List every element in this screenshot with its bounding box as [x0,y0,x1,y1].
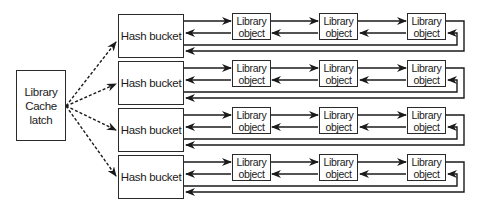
hash-bucket-label: Hash bucket [121,30,182,43]
hash-bucket: Hash bucket [118,108,184,152]
library-object-label: Library object [412,109,442,133]
hash-bucket-label: Hash bucket [121,171,182,184]
library-object: Library object [407,13,446,40]
library-object: Library object [407,60,446,87]
library-object-label: Library object [237,156,267,180]
library-object: Library object [319,60,358,87]
library-object: Library object [407,107,446,134]
library-object-label: Library object [237,62,267,86]
library-object: Library object [319,154,358,181]
library-object: Library object [407,154,446,181]
library-cache-latch: Library Cache latch [16,70,66,141]
hash-bucket: Hash bucket [118,14,184,58]
library-object-label: Library object [237,109,267,133]
hash-bucket-label: Hash bucket [121,77,182,90]
library-object-label: Library object [412,62,442,86]
library-object: Library object [232,107,271,134]
library-object-label: Library object [412,15,442,39]
library-object: Library object [232,154,271,181]
library-object-label: Library object [324,156,354,180]
library-object: Library object [232,60,271,87]
hash-bucket-label: Hash bucket [121,124,182,137]
hash-bucket: Hash bucket [118,61,184,105]
library-object-label: Library object [237,15,267,39]
library-object: Library object [319,107,358,134]
library-object: Library object [232,13,271,40]
hash-bucket: Hash bucket [118,155,184,199]
library-object: Library object [319,13,358,40]
library-object-label: Library object [324,62,354,86]
latch-arrows [66,42,116,176]
latch-label: Library Cache latch [24,85,57,127]
library-object-label: Library object [324,15,354,39]
library-object-label: Library object [324,109,354,133]
library-object-label: Library object [412,156,442,180]
